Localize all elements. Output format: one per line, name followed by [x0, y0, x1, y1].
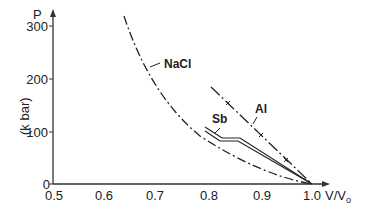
chart-svg: 0 100 200 300 P (k bar) 0.5 0.6 0.7 0.8 …: [0, 0, 365, 213]
series-nacl: [124, 16, 312, 184]
chart: 0 100 200 300 P (k bar) 0.5 0.6 0.7 0.8 …: [0, 0, 365, 213]
y-tick: 200: [26, 72, 48, 87]
x-tick: 0.9: [253, 188, 271, 203]
x-tick: 0.5: [45, 188, 63, 203]
series-sb: [205, 127, 312, 184]
x-tick: 0.8: [200, 188, 218, 203]
y-label-p: P: [33, 7, 42, 22]
x-tick: 1.0: [303, 188, 321, 203]
x-axis-arrow-icon: [322, 181, 330, 187]
label-nacl: NaCl: [164, 57, 191, 71]
y-axis-arrow-icon: [50, 9, 56, 17]
x-tick: 0.7: [146, 188, 164, 203]
label-sb: Sb: [212, 112, 227, 126]
x-label: V/Vo: [325, 188, 351, 205]
nacl-pointer: [150, 63, 160, 67]
al-pointer: [253, 117, 257, 124]
sb-pointer: [214, 128, 220, 134]
label-al: Al: [255, 102, 267, 116]
y-label-unit: (k bar): [17, 97, 32, 135]
x-tick: 0.6: [95, 188, 113, 203]
series-sb-lower: [205, 131, 312, 184]
